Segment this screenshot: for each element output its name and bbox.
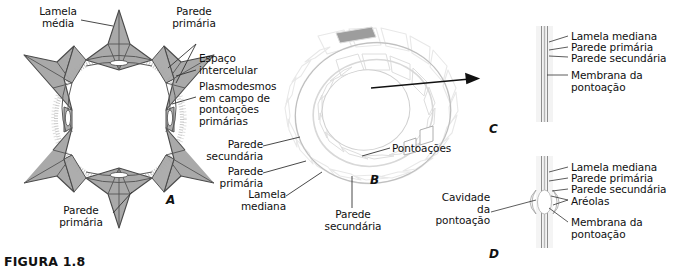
panel-letter-c: C — [489, 122, 498, 136]
panel-a-artwork — [24, 10, 214, 228]
label-parede-primaria-a-top: Parede primária — [163, 6, 225, 29]
label-parede-secundaria-b-bottom: Parede secundária — [313, 209, 393, 232]
areola-d-left — [530, 190, 536, 214]
label-membrana-pontoacao-d: Membrana da pontoação — [571, 217, 666, 240]
label-parede-primaria-b: Parede primária — [190, 166, 263, 189]
label-areolas-d: Aréolas — [571, 196, 641, 208]
label-lamela-media-a: Lamela média — [28, 6, 88, 29]
label-espaco-intercelular-a: Espaço intercelular — [199, 53, 279, 76]
panel-letter-a: A — [166, 193, 175, 207]
label-parede-secundaria-c: Parede secundária — [571, 53, 682, 65]
figure-caption: FIGURA 1.8 — [4, 254, 85, 269]
areola-d-right — [553, 190, 559, 214]
label-parede-secundaria-d: Parede secundária — [571, 184, 682, 196]
label-pontoacoes-b: Pontoações — [392, 143, 462, 155]
label-parede-secundaria-b-left: Parede secundária — [185, 139, 263, 162]
label-parede-primaria-a-bottom: Parede primária — [48, 205, 114, 228]
label-plasmodesmos-a: Plasmodesmos em campo de pontoações prim… — [199, 81, 291, 127]
wall-block-c-tl — [488, 30, 536, 64]
panel-letter-b: B — [370, 173, 379, 187]
label-cavidade-pontoacao-d: Cavidade da pontoação — [398, 192, 490, 227]
label-membrana-pontoacao-c: Membrana da pontoação — [571, 70, 661, 93]
wall-block-c-bl — [488, 84, 536, 118]
pit-chamber-d — [538, 190, 552, 214]
label-lamela-mediana-b: Lamela mediana — [212, 189, 286, 212]
panel-letter-d: D — [489, 247, 499, 261]
